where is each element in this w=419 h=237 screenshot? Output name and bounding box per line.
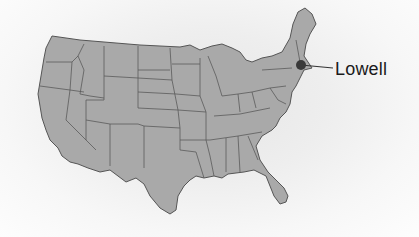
us-map — [0, 0, 419, 237]
map-canvas: Lowell — [0, 0, 419, 237]
us-outline — [38, 8, 316, 214]
location-marker-icon[interactable] — [296, 60, 306, 70]
city-label: Lowell — [335, 59, 387, 80]
